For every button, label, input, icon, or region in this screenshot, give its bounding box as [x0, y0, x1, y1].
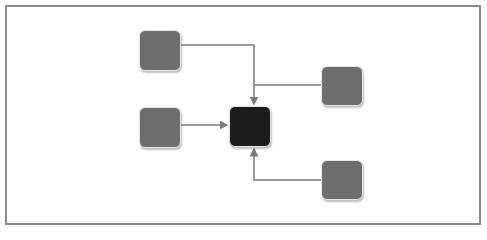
node-top-left — [139, 30, 181, 71]
node-mid-left — [139, 107, 181, 148]
edge-bottom-right-to-center — [254, 149, 321, 180]
node-bottom-right — [321, 160, 363, 200]
node-top-right — [321, 66, 363, 106]
node-center — [229, 106, 271, 147]
edge-top-left-to-center — [181, 45, 254, 104]
